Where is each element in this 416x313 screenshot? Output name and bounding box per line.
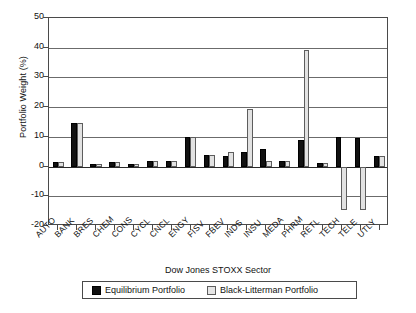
bar-fbev-black-litterman (228, 152, 234, 167)
x-axis-title: Dow Jones STOXX Sector (48, 265, 388, 275)
y-tick-label: 40 (10, 42, 44, 51)
bar-auto-black-litterman (58, 162, 64, 166)
chart-figure: Portfolio Weight (%) 50403020100-10-20 A… (0, 0, 416, 313)
x-tick-mark (379, 225, 380, 230)
bar-chem-black-litterman (115, 162, 121, 167)
gridline-20 (49, 107, 387, 108)
gridline--10 (49, 196, 387, 197)
bar-insu-black-litterman (266, 161, 272, 166)
gridline-40 (49, 48, 387, 49)
bar-inds-black-litterman (247, 109, 253, 167)
bar-tech-black-litterman (341, 167, 347, 210)
y-tick-label: 20 (10, 101, 44, 110)
chart-legend: Equilibrium Portfolio Black-Litterman Po… (82, 281, 357, 299)
legend-item-equilibrium: Equilibrium Portfolio (92, 285, 185, 295)
bar-tech-equilibrium (336, 137, 342, 166)
y-tick-label: 30 (10, 71, 44, 80)
plot-area (48, 17, 388, 225)
bar-cons-black-litterman (134, 164, 140, 166)
bar-phrm-black-litterman (304, 50, 310, 167)
gridline-30 (49, 77, 387, 78)
legend-label-equilibrium: Equilibrium Portfolio (105, 285, 185, 295)
bar-utly-black-litterman (379, 156, 385, 166)
legend-swatch-equilibrium-icon (92, 286, 101, 295)
bar-fisv-black-litterman (209, 155, 215, 166)
bar-retl-black-litterman (323, 163, 329, 167)
bar-tele-black-litterman (360, 167, 366, 210)
bar-cycl-black-litterman (153, 161, 159, 167)
bar-tele-equilibrium (355, 138, 361, 166)
bar-meda-black-litterman (285, 161, 291, 167)
legend-swatch-black-litterman-icon (207, 286, 216, 295)
bar-cncl-black-litterman (171, 161, 177, 167)
legend-label-black-litterman: Black-Litterman Portfolio (220, 285, 318, 295)
gridline-0 (49, 167, 387, 168)
bar-engy-black-litterman (190, 137, 196, 167)
y-tick-label: 50 (10, 12, 44, 21)
y-tick-label: 0 (10, 161, 44, 170)
y-tick-label: 10 (10, 131, 44, 140)
legend-item-black-litterman: Black-Litterman Portfolio (207, 285, 318, 295)
y-tick-label: -10 (10, 190, 44, 199)
bar-bank-black-litterman (77, 123, 83, 167)
bar-bres-black-litterman (96, 164, 102, 167)
